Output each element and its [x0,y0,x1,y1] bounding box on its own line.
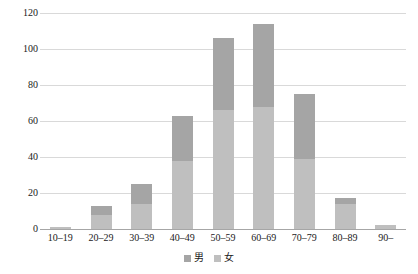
bar-segment-male[interactable] [172,116,193,161]
bar-segment-female[interactable] [213,110,234,229]
y-tick-label: 0 [4,224,38,234]
bar-group[interactable] [294,94,315,229]
bar-segment-male[interactable] [253,24,274,107]
bar-group[interactable] [375,225,396,229]
bar-segment-female[interactable] [172,161,193,229]
y-tick-label: 40 [4,152,38,162]
bar-segment-female[interactable] [253,107,274,229]
bar-segment-male[interactable] [213,38,234,110]
x-tick-label: 70–79 [284,232,325,244]
bar-segment-female[interactable] [335,204,356,229]
x-tick-label: 80–89 [325,232,366,244]
bar-segment-female[interactable] [294,159,315,229]
y-tick-label: 80 [4,80,38,90]
legend-swatch-icon [214,255,221,262]
legend-entry[interactable]: 男 [184,252,204,264]
bar-segment-male[interactable] [91,206,112,215]
bar-group[interactable] [253,24,274,229]
x-tick-label: 50–59 [203,232,244,244]
legend-swatch-icon [184,255,191,262]
bar-group[interactable] [91,206,112,229]
bar-segment-male[interactable] [294,94,315,159]
x-tick-label: 30–39 [121,232,162,244]
bar-group[interactable] [335,198,356,229]
x-tick-label: 20–29 [81,232,122,244]
y-tick-label: 60 [4,116,38,126]
legend-entry[interactable]: 女 [214,252,234,264]
plot-area [40,13,406,229]
chart-legend: 男女 [0,252,418,264]
x-tick-label: 40–49 [162,232,203,244]
legend-label: 男 [194,252,204,264]
y-tick-label: 120 [4,8,38,18]
y-axis: 020406080100120 [0,0,38,274]
bar-segment-female[interactable] [131,204,152,229]
stacked-bar-chart: 020406080100120 10–1920–2930–3940–4950–5… [0,0,418,274]
x-axis: 10–1920–2930–3940–4950–5960–6970–7980–89… [40,232,406,246]
bar-segment-male[interactable] [131,184,152,204]
x-tick-label: 10–19 [40,232,81,244]
y-tick-label: 100 [4,44,38,54]
gridline-0 [40,229,406,230]
bar-segment-female[interactable] [91,215,112,229]
y-tick-label: 20 [4,188,38,198]
bar-segment-female[interactable] [375,225,396,229]
x-tick-label: 90– [365,232,406,244]
bar-group[interactable] [172,116,193,229]
bar-group[interactable] [131,184,152,229]
bar-group[interactable] [213,38,234,229]
bar-group[interactable] [50,227,71,229]
bars-layer [40,13,406,229]
legend-label: 女 [224,252,234,264]
bar-segment-female[interactable] [50,227,71,229]
x-tick-label: 60–69 [243,232,284,244]
